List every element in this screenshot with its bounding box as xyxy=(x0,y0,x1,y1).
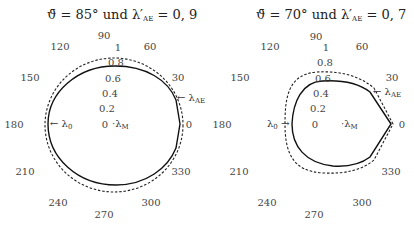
angle-tick-150: 150 xyxy=(20,73,39,83)
angle-tick-30: 30 xyxy=(172,73,185,83)
angle-tick-210: 210 xyxy=(229,167,248,177)
angle-tick-240: 240 xyxy=(48,198,67,208)
polar-plot-left: ϑ̄ = 85° und λ′AE = 0, 9 90 120 60 150 3… xyxy=(0,0,207,230)
angle-tick-300: 300 xyxy=(141,198,160,208)
lambda-m-label: ·λM xyxy=(112,119,129,131)
radial-tick-1: 1 xyxy=(115,43,121,53)
arrow-left-icon: ← xyxy=(373,86,381,97)
angle-tick-180: 180 xyxy=(212,120,231,130)
angle-tick-0: 0 xyxy=(399,120,405,130)
arrow-left-icon: ← xyxy=(177,92,185,103)
angle-tick-180: 180 xyxy=(4,120,23,130)
radial-tick-1: 1 xyxy=(323,43,329,53)
polar-plot-right: ϑ̄ = 70° und λ′AE = 0, 7 90 120 60 150 3… xyxy=(207,0,414,230)
angle-tick-60: 60 xyxy=(144,42,157,52)
radial-tick-0.4: 0.4 xyxy=(313,89,329,99)
angle-tick-150: 150 xyxy=(230,73,249,83)
radial-tick-0: 0 xyxy=(312,120,318,130)
radial-tick-0.6: 0.6 xyxy=(105,74,121,84)
radial-tick-0.4: 0.4 xyxy=(102,89,118,99)
angle-tick-30: 30 xyxy=(386,73,399,83)
radial-tick-0.2: 0.2 xyxy=(99,104,115,114)
title-right: ϑ̄ = 70° und λ′AE = 0, 7 xyxy=(256,7,406,23)
radial-tick-0.8: 0.8 xyxy=(108,58,124,68)
angle-tick-270: 270 xyxy=(304,210,323,220)
lambda-ae-label: ← λAE xyxy=(177,93,205,105)
angle-tick-330: 330 xyxy=(381,167,400,177)
angle-tick-90: 90 xyxy=(310,32,323,42)
radial-tick-0.8: 0.8 xyxy=(317,58,333,68)
angle-tick-300: 300 xyxy=(352,198,371,208)
lambda-m-label: ·λM xyxy=(341,119,358,131)
radial-tick-0.6: 0.6 xyxy=(315,74,331,84)
angle-tick-90: 90 xyxy=(98,31,111,41)
angle-tick-60: 60 xyxy=(356,42,369,52)
angle-tick-0: 0 xyxy=(186,120,192,130)
lambda-0-label: ← λ0 xyxy=(50,119,72,131)
angle-tick-210: 210 xyxy=(15,167,34,177)
lambda-0-label: λ0 → xyxy=(267,119,289,131)
radial-tick-0.2: 0.2 xyxy=(310,104,326,114)
arrow-right-icon: → xyxy=(281,118,289,129)
angle-tick-120: 120 xyxy=(260,42,279,52)
lambda-ae-label: ← λAE xyxy=(373,87,401,99)
angle-tick-330: 330 xyxy=(171,167,190,177)
radial-tick-0: 0 xyxy=(102,120,108,130)
arrow-left-icon: ← xyxy=(50,118,58,129)
angle-tick-270: 270 xyxy=(94,210,113,220)
angle-tick-120: 120 xyxy=(50,42,69,52)
title-left: ϑ̄ = 85° und λ′AE = 0, 9 xyxy=(47,7,197,23)
angle-tick-240: 240 xyxy=(257,198,276,208)
